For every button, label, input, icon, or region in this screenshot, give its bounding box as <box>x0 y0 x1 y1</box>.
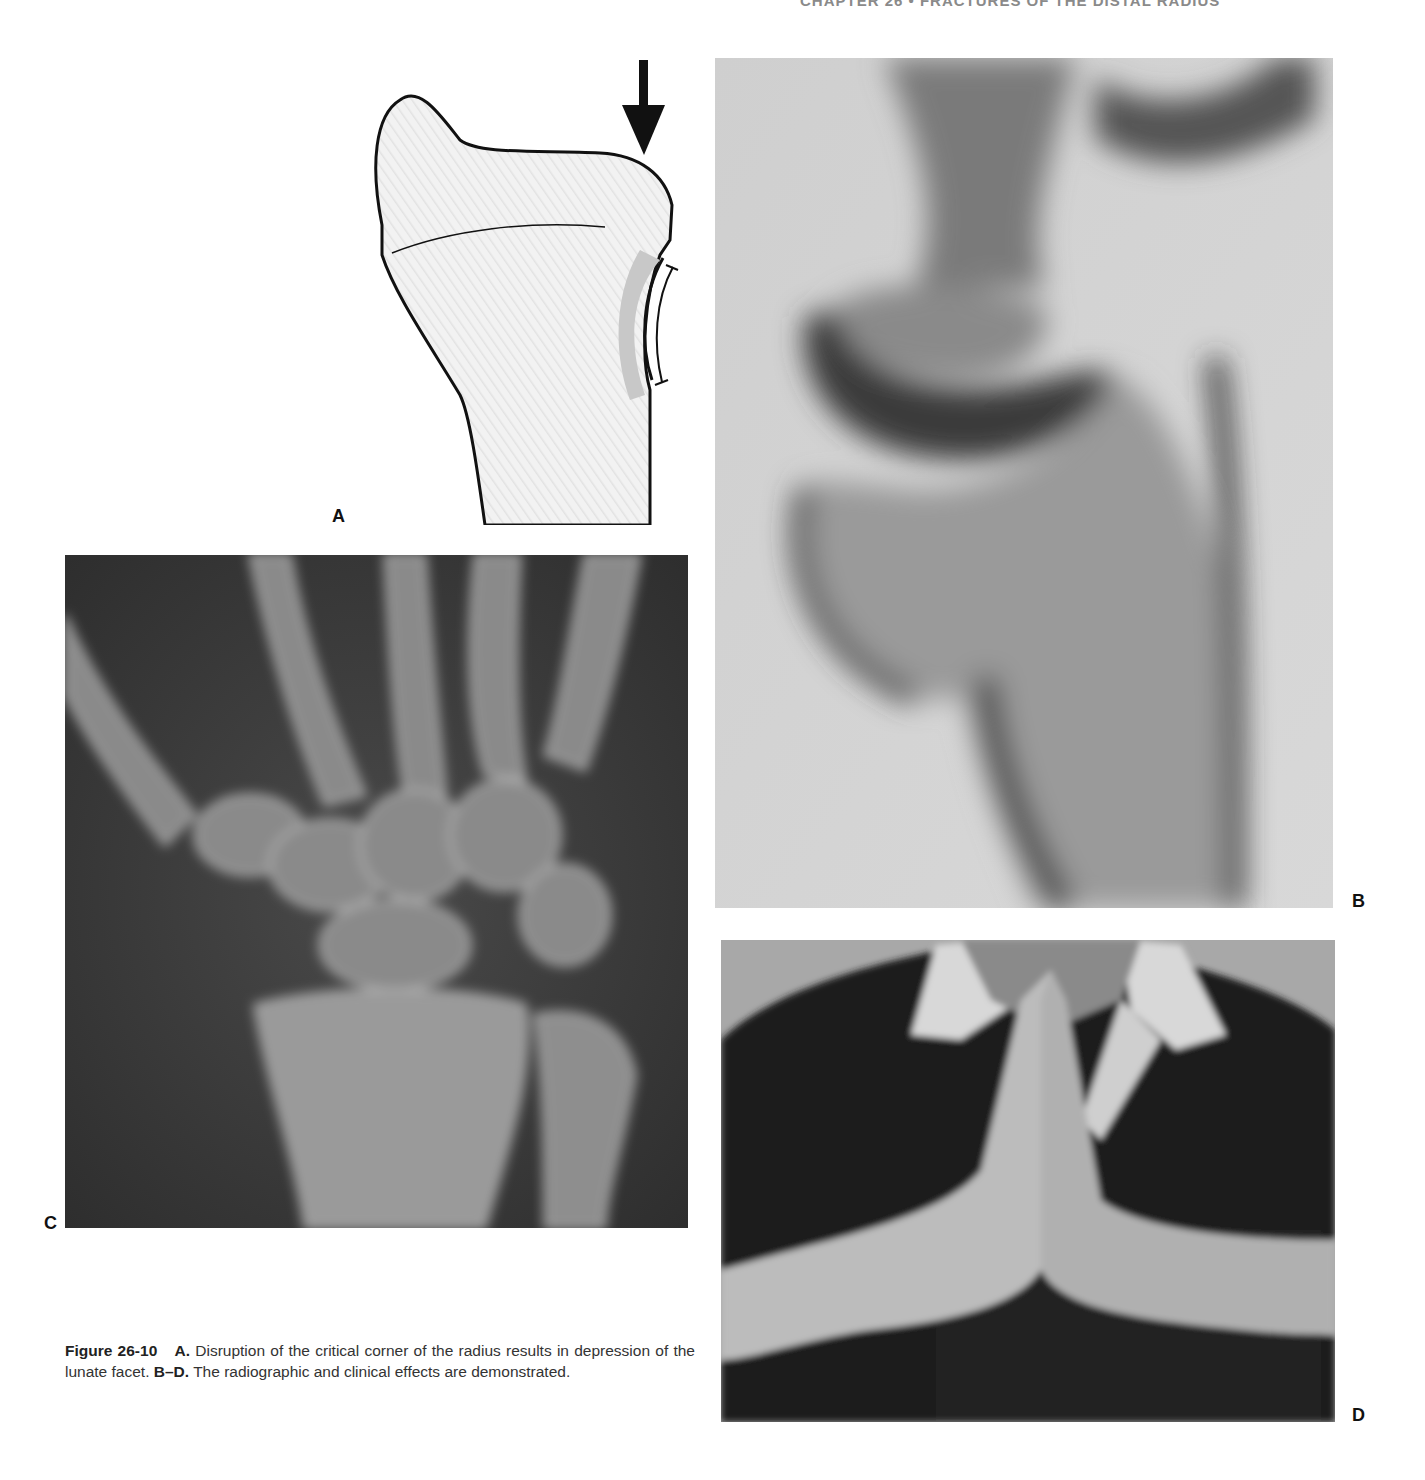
caption-part-bd-text: The radiographic and clinical effects ar… <box>193 1363 570 1380</box>
pa-wrist-xray <box>65 555 688 1228</box>
figure-panel-c-radiograph <box>65 555 688 1228</box>
figure-caption: Figure 26-10 A. Disruption of the critic… <box>65 1340 695 1382</box>
radius-bone-illustration <box>360 55 690 525</box>
caption-part-a-label: A. <box>175 1342 191 1359</box>
figure-number: Figure 26-10 <box>65 1342 157 1359</box>
panel-label-c: C <box>44 1213 57 1234</box>
running-head: CHAPTER 26 • FRACTURES OF THE DISTAL RAD… <box>800 0 1220 9</box>
figure-panel-a-drawing <box>360 55 690 525</box>
panel-label-a: A <box>332 506 345 527</box>
figure-panel-b-radiograph <box>715 58 1333 908</box>
lateral-wrist-xray <box>715 58 1333 908</box>
caption-part-bd-label: B–D. <box>154 1363 189 1380</box>
prayer-sign-photo <box>721 940 1335 1422</box>
figure-panel-d-clinical-photo <box>721 940 1335 1422</box>
panel-label-b: B <box>1352 891 1365 912</box>
arrow-down-icon <box>622 60 665 155</box>
panel-label-d: D <box>1352 1405 1365 1426</box>
